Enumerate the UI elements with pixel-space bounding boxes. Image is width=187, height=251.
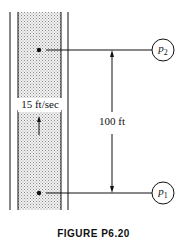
upper-tap-point xyxy=(37,48,41,52)
figure-caption: FIGURE P6.20 xyxy=(0,228,187,239)
gauge-p1-subscript: 1 xyxy=(164,191,168,200)
height-label: 100 ft xyxy=(94,115,130,127)
arrow-down-icon xyxy=(110,186,114,193)
arrow-up-icon xyxy=(110,50,114,57)
velocity-label: 15 ft/sec xyxy=(17,98,63,110)
gauge-p2-label: p2 xyxy=(152,42,174,57)
gauge-p1-label: p1 xyxy=(152,185,174,200)
lower-tap-point xyxy=(37,191,41,195)
gauge-p2-subscript: 2 xyxy=(164,48,168,57)
